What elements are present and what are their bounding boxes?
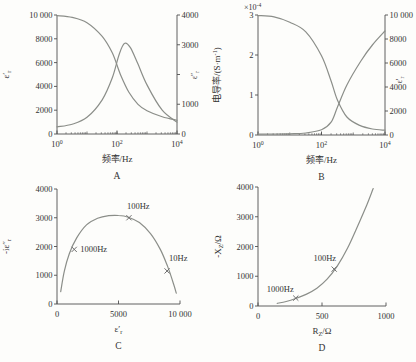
y-left-tick-label: 10 000 — [29, 10, 52, 20]
x-axis-title: ε′r — [115, 324, 124, 335]
curve-0 — [61, 215, 177, 293]
axes-frame — [57, 189, 180, 304]
marker-label: 1000Hz — [267, 284, 294, 294]
x-tick-label: 500 — [316, 311, 329, 321]
y-left-tick-label: 1000 — [36, 270, 53, 280]
x-tick-label: 100 — [51, 139, 63, 149]
marker-label: 100Hz — [127, 201, 150, 211]
y-left-tick-label: 8000 — [36, 34, 53, 44]
subplot-b: 10010210401230200040006000800010 000频率/H… — [208, 0, 416, 181]
y-left-tick-label: 6000 — [36, 58, 53, 68]
marker-label: 10Hz — [169, 253, 188, 263]
marker-label: 1000Hz — [80, 244, 107, 254]
y-right-tick-label: 1000 — [182, 99, 199, 109]
y-right-tick-label: 4000 — [182, 10, 199, 20]
four-panel-dielectric-figure: 1001021040200040006000800010 00001000300… — [0, 0, 416, 362]
marker-label: 100Hz — [313, 253, 336, 263]
curve-1 — [258, 16, 385, 131]
x-tick-label: 10 000 — [168, 309, 191, 319]
x-tick-label: 0 — [55, 309, 59, 319]
y-left-axis-title: -XZ/Ω — [213, 235, 224, 258]
y-right-tick-label: 8000 — [390, 34, 407, 44]
y-left-axis-title: ε′r — [1, 70, 12, 79]
y-right-tick-label: 0 — [182, 129, 186, 139]
subplot-caption: D — [319, 343, 326, 353]
y-left-tick-label: 4000 — [36, 184, 53, 194]
y-left-tick-label: 1 — [249, 90, 253, 100]
subplot-caption: C — [115, 341, 121, 351]
subplot-c: 0500010 00001000200030004000ε′r-iε″rC100… — [0, 181, 208, 362]
x-tick-label: 1000 — [378, 311, 395, 321]
y-left-tick-label: 0 — [249, 130, 253, 140]
y-left-tick-label: 2000 — [36, 242, 53, 252]
axes-frame — [258, 15, 385, 135]
y-left-tick-label: 2 — [249, 50, 253, 60]
x-tick-label: 102 — [316, 140, 328, 150]
y-left-tick-label: 2000 — [237, 242, 254, 252]
y-right-tick-label: 0 — [390, 130, 394, 140]
subplot-caption: A — [114, 171, 121, 181]
x-tick-label: 104 — [379, 140, 391, 150]
curve-0 — [258, 31, 385, 134]
y-left-axis-title: -iε″r — [1, 238, 12, 254]
y-left-tick-label: 0 — [48, 299, 52, 309]
y-left-tick-label: 4000 — [237, 182, 254, 192]
y-left-tick-label: 0 — [48, 129, 52, 139]
y-right-tick-label: 6000 — [390, 58, 407, 68]
curve-0 — [57, 16, 177, 121]
y-right-tick-label: 2000 — [390, 106, 407, 116]
y-right-axis-title: ε″r — [190, 71, 200, 79]
data-marker-cross — [72, 247, 77, 252]
x-tick-label: 100 — [252, 140, 264, 150]
y-left-tick-label: 0 — [249, 301, 253, 311]
y-right-axis-title: ε′r — [395, 76, 405, 83]
y-right-tick-label: 10 000 — [390, 10, 413, 20]
x-axis-title: 频率/Hz — [102, 153, 133, 164]
y-left-multiplier: ×10-4 — [244, 2, 261, 12]
x-tick-label: 5000 — [110, 309, 127, 319]
x-tick-label: 102 — [111, 139, 123, 149]
y-left-tick-label: 4000 — [36, 81, 53, 91]
y-right-tick-label: 3000 — [182, 40, 199, 50]
subplot-a: 1001021040200040006000800010 00001000300… — [0, 0, 208, 181]
x-tick-label: 104 — [171, 139, 183, 149]
y-left-tick-label: 2000 — [36, 105, 53, 115]
x-axis-title: RZ/Ω — [312, 326, 331, 337]
y-left-tick-label: 3000 — [237, 212, 254, 222]
curve-1 — [57, 43, 177, 127]
y-left-tick-label: 3000 — [36, 213, 53, 223]
x-axis-title: 频率/Hz — [306, 154, 337, 165]
y-left-axis-title: 电导率/(S·m-1) — [211, 47, 222, 103]
x-tick-label: 0 — [256, 311, 260, 321]
y-left-tick-label: 1000 — [237, 271, 254, 281]
subplot-d: 0500100001000200030004000RZ/Ω-XZ/ΩD1000H… — [208, 181, 416, 362]
subplot-caption: B — [318, 172, 324, 181]
